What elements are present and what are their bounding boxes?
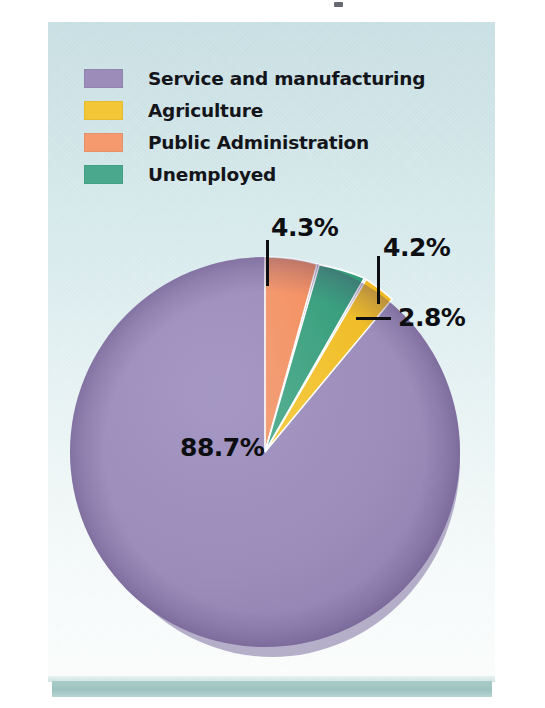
legend-item-public-administration[interactable]: Public Administration xyxy=(84,126,444,158)
leader-line-unemployed xyxy=(377,256,380,304)
panel-base-shelf xyxy=(52,681,492,697)
value-label-agriculture: 2.8% xyxy=(398,303,465,332)
legend-swatch-unemployed xyxy=(84,165,123,184)
value-label-unemployed: 4.2% xyxy=(383,233,450,262)
value-label-public-administration: 4.3% xyxy=(271,213,338,242)
legend-item-agriculture[interactable]: Agriculture xyxy=(84,94,444,126)
legend-label-unemployed: Unemployed xyxy=(148,164,276,185)
legend-label-agriculture: Agriculture xyxy=(148,100,263,121)
legend-swatch-agriculture xyxy=(84,101,123,120)
leader-line-public-administration xyxy=(266,240,269,286)
legend-swatch-service-and-manufacturing xyxy=(84,69,123,88)
legend-item-service-and-manufacturing[interactable]: Service and manufacturing xyxy=(84,62,444,94)
legend-label-public-administration: Public Administration xyxy=(148,132,369,153)
legend-label-service-and-manufacturing: Service and manufacturing xyxy=(148,68,425,89)
chart-legend: Service and manufacturing Agriculture Pu… xyxy=(84,62,444,190)
value-label-service-and-manufacturing: 88.7% xyxy=(180,433,264,462)
top-crop-artifact xyxy=(334,2,343,7)
pie-chart-figure: Service and manufacturing Agriculture Pu… xyxy=(0,0,545,708)
leader-line-agriculture xyxy=(356,317,391,320)
legend-item-unemployed[interactable]: Unemployed xyxy=(84,158,444,190)
legend-swatch-public-administration xyxy=(84,133,123,152)
